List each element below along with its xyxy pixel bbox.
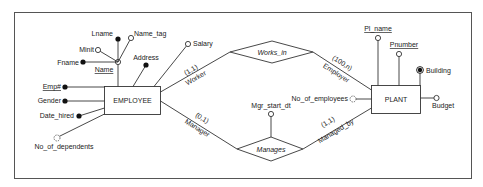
svg-text:Minit: Minit xyxy=(79,46,94,53)
svg-text:Budget: Budget xyxy=(432,102,454,110)
svg-text:Name_tag: Name_tag xyxy=(134,30,166,38)
svg-text:Lname: Lname xyxy=(92,30,114,37)
filled-circle-icon xyxy=(62,84,67,89)
entity-employee-label: EMPLOYEE xyxy=(113,97,152,104)
svg-text:Works_in: Works_in xyxy=(257,49,286,56)
filled-circle-icon xyxy=(62,98,67,103)
open-circle-icon xyxy=(268,111,273,116)
svg-text:No_of_dependents: No_of_dependents xyxy=(34,143,94,151)
open-circle-icon xyxy=(185,41,190,46)
svg-text:Emp#: Emp# xyxy=(43,83,61,91)
entity-plant[interactable]: PLANT xyxy=(372,86,421,114)
filled-circle-icon xyxy=(143,62,148,67)
er-diagram: EMPLOYEE Name Lname Name_tag Minit Fname… xyxy=(0,0,483,187)
svg-text:Pl_name: Pl_name xyxy=(364,25,392,33)
svg-text:Mgr_start_dt: Mgr_start_dt xyxy=(251,102,290,110)
open-circle-icon xyxy=(396,51,401,56)
svg-text:Pnumber: Pnumber xyxy=(390,41,419,48)
entity-plant-label: PLANT xyxy=(385,96,408,103)
svg-text:Name: Name xyxy=(95,66,114,73)
svg-text:Address: Address xyxy=(133,54,159,61)
svg-text:Manages: Manages xyxy=(257,146,286,154)
svg-text:No_of_employees: No_of_employees xyxy=(292,95,349,103)
open-circle-icon xyxy=(434,95,439,100)
filled-circle-icon xyxy=(115,36,120,41)
derived-attribute-icon xyxy=(350,96,356,102)
svg-text:Fname: Fname xyxy=(57,59,79,66)
open-circle-icon xyxy=(128,35,133,40)
filled-circle-icon xyxy=(80,59,85,64)
open-circle-icon xyxy=(375,35,380,40)
svg-text:Salary: Salary xyxy=(193,40,213,48)
svg-text:Date_hired: Date_hired xyxy=(40,112,74,120)
entity-employee[interactable]: EMPLOYEE xyxy=(105,87,161,115)
svg-text:Building: Building xyxy=(426,67,451,75)
open-circle-icon xyxy=(95,47,100,52)
svg-text:Gender: Gender xyxy=(38,97,62,104)
filled-circle-icon xyxy=(76,113,81,118)
derived-attribute-icon xyxy=(54,135,60,141)
